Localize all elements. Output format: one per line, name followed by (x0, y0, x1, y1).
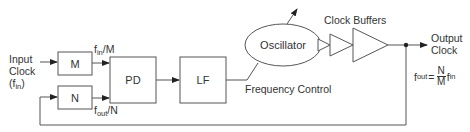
pll-diagram: Input Clock (fin) M N PD LF Oscillator f… (0, 0, 470, 132)
clock-buffers-label: Clock Buffers (324, 14, 386, 26)
formula-fraction: N M (437, 66, 446, 87)
buffer-large (353, 28, 388, 62)
input-clock-label-line3: (fin) (9, 77, 25, 93)
output-junction-dot (404, 43, 408, 47)
n-divider-label: N (58, 86, 92, 109)
frequency-control-label: Frequency Control (245, 83, 331, 95)
buffer-medium (330, 34, 353, 56)
oscillator-label: Oscillator (245, 24, 321, 66)
tuning-arrow (287, 9, 297, 24)
phase-detector-label: PD (110, 57, 156, 103)
input-clock-label-line2: Clock (9, 65, 35, 77)
output-clock-label-line1: Output (431, 32, 463, 44)
fout-over-n-label: fout/N (94, 104, 118, 120)
loop-filter-label: LF (180, 57, 226, 103)
fin-over-m-label: fin/M (94, 43, 114, 59)
output-clock-label-line2: Clock (431, 44, 457, 56)
output-frequency-formula: fout = N M fin (414, 66, 456, 87)
input-clock-label-line1: Input (9, 53, 32, 65)
m-divider-label: M (58, 52, 92, 75)
